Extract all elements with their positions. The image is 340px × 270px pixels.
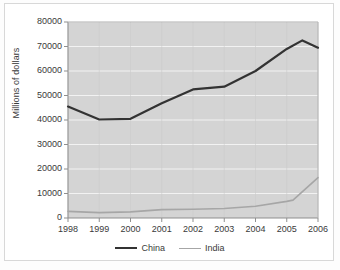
legend-line-swatch [115, 247, 137, 249]
chart-container: Millions of dollars 01000020000300004000… [0, 0, 340, 270]
legend-label: China [141, 243, 165, 253]
plot-area [0, 0, 340, 270]
legend-item[interactable]: India [179, 243, 225, 253]
legend-line-swatch [179, 248, 201, 249]
chart-legend: ChinaIndia [0, 243, 340, 253]
legend-label: India [205, 243, 225, 253]
legend-item[interactable]: China [115, 243, 165, 253]
